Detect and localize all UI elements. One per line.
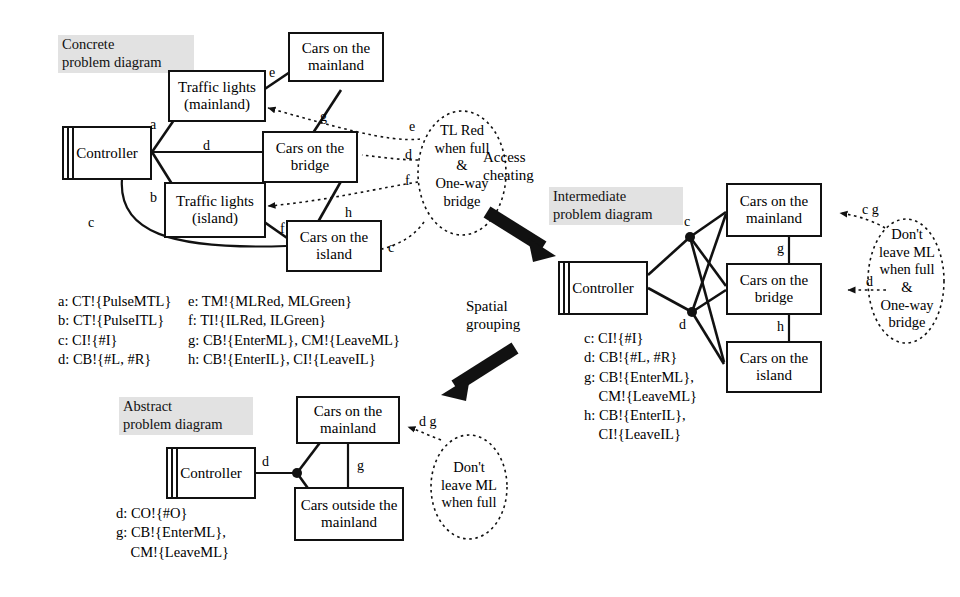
node-cars-on-the-mainland-concrete: Cars on the mainland (288, 32, 384, 82)
node-controller-concrete: Controller (62, 126, 152, 180)
edge-label-h: h (345, 206, 352, 220)
edge-label-d-abstract: d (262, 455, 269, 469)
requirement-ref-label-cg: c g (862, 203, 879, 217)
edge-label-g-intermediate: g (777, 242, 784, 256)
node-cars-on-the-mainland-intermediate: Cars on the mainland (726, 183, 822, 237)
abstract-diagram-caption: Abstract problem diagram (119, 397, 253, 435)
node-label: Cars on the mainland (728, 193, 820, 227)
requirement-ref-label-dg: d g (419, 415, 437, 429)
abstract-legend: d: CO!{#O} g: CB!{EnterML}, CM!{LeaveML} (116, 504, 229, 562)
edge-label-d: d (203, 139, 210, 153)
transition-label-access-cheating: Access cheating (483, 148, 534, 184)
edge-label-h-intermediate: h (777, 320, 784, 334)
edge-label-a: a (150, 118, 156, 132)
requirement-ref-label-e: e (409, 120, 415, 134)
machine-bars-icon (168, 449, 179, 497)
node-controller-abstract: Controller (166, 447, 256, 499)
requirement-ref-label-c: c (388, 241, 394, 255)
concrete-legend-column-1: a: CT!{PulseMTL} b: CT!{PulseITL} c: CI!… (58, 292, 171, 369)
node-traffic-lights-mainland: Traffic lights (mainland) (168, 70, 266, 122)
machine-bars-icon (64, 128, 75, 178)
node-label: Traffic lights (mainland) (170, 79, 264, 113)
node-label: Traffic lights (island) (166, 193, 264, 227)
edge-label-g-abstract: g (357, 459, 364, 473)
node-label: Cars on the bridge (728, 272, 820, 306)
node-label: Cars on the island (288, 229, 380, 263)
node-label: Cars outside the mainland (296, 497, 402, 531)
figure-canvas: Concrete problem diagram Controller Traf… (0, 0, 960, 597)
node-label: Controller (73, 145, 141, 162)
intermediate-legend: c: CI!{#I} d: CB!{#L, #R} g: CB!{EnterML… (584, 329, 697, 445)
node-cars-on-the-bridge-intermediate: Cars on the bridge (726, 263, 822, 315)
node-label: Controller (569, 280, 637, 297)
edge-label-c-intermediate: c (684, 215, 690, 229)
node-cars-on-the-island-concrete: Cars on the island (286, 220, 382, 272)
node-controller-intermediate: Controller (558, 261, 648, 315)
concrete-legend-column-2: e: TM!{MLRed, MLGreen} f: TI!{ILRed, ILG… (188, 292, 400, 369)
concrete-diagram-caption: Concrete problem diagram (58, 35, 194, 73)
node-cars-outside-the-mainland: Cars outside the mainland (294, 487, 404, 541)
edge-label-f: f (280, 222, 285, 236)
node-label: Controller (177, 465, 245, 482)
requirement-oval-intermediate: Don't leave ML when full & One-way bridg… (870, 226, 944, 332)
node-cars-on-the-bridge-concrete: Cars on the bridge (262, 131, 358, 183)
node-traffic-lights-island: Traffic lights (island) (164, 182, 266, 238)
node-label: Cars on the mainland (298, 403, 398, 437)
edge-label-c: c (88, 216, 94, 230)
node-cars-on-the-island-intermediate: Cars on the island (726, 341, 822, 393)
requirement-ref-label-d: d (405, 148, 412, 162)
node-label: Cars on the bridge (264, 140, 356, 174)
requirement-ref-label-f: f (405, 174, 410, 188)
node-label: Cars on the mainland (290, 40, 382, 74)
edge-label-b: b (150, 191, 157, 205)
machine-bars-icon (560, 263, 571, 313)
edge-label-e: e (269, 66, 275, 80)
requirement-oval-abstract: Don't leave ML when full (434, 459, 504, 512)
intermediate-diagram-caption: Intermediate problem diagram (549, 187, 683, 225)
edge-label-g: g (320, 110, 327, 124)
node-label: Cars on the island (728, 350, 820, 384)
transition-label-spatial-grouping: Spatial grouping (466, 297, 520, 333)
node-cars-on-the-mainland-abstract: Cars on the mainland (296, 396, 400, 444)
